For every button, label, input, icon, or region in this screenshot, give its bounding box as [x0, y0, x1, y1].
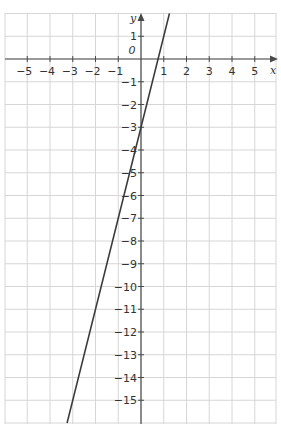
coordinate-plane: −5−4−3−2−1123451−1−2−3−4−5−6−7−8−9−10−11…	[0, 0, 281, 429]
y-tick-label: −13	[114, 349, 137, 362]
y-tick-label: −9	[121, 258, 137, 271]
x-tick-label: −2	[84, 65, 100, 78]
y-tick-label: −15	[114, 394, 137, 407]
y-tick-label: −2	[121, 99, 137, 112]
y-tick-label: −8	[121, 235, 137, 248]
x-tick-label: −5	[16, 65, 32, 78]
y-tick-label: −3	[121, 121, 137, 134]
x-axis-label: x	[270, 64, 277, 77]
y-tick-label: −10	[114, 281, 137, 294]
tick-labels: −5−4−3−2−1123451−1−2−3−4−5−6−7−8−9−10−11…	[16, 12, 277, 407]
x-tick-label: −3	[62, 65, 78, 78]
y-tick-label: −1	[121, 76, 137, 89]
x-tick-label: −4	[39, 65, 55, 78]
y-tick-label: −14	[114, 372, 137, 385]
x-tick-label: 1	[160, 65, 167, 78]
y-axis-arrow-icon	[138, 13, 145, 21]
y-tick-label: −7	[121, 212, 137, 225]
x-tick-label: 5	[251, 65, 258, 78]
y-tick-label: 1	[130, 30, 137, 43]
y-axis-label: y	[129, 12, 137, 25]
x-tick-label: 3	[206, 65, 213, 78]
y-tick-label: −12	[114, 326, 137, 339]
origin-label: 0	[129, 44, 136, 57]
x-tick-label: 2	[183, 65, 190, 78]
x-tick-label: 4	[229, 65, 236, 78]
x-axis-arrow-icon	[270, 56, 278, 63]
y-tick-label: −11	[114, 303, 137, 316]
